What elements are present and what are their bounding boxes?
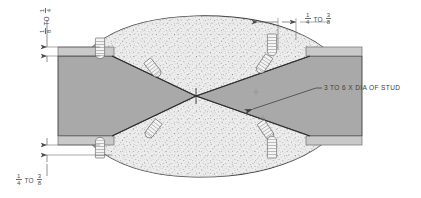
dimension-top-right-separator: TO: [311, 16, 326, 23]
annotation-stud-spacing: 3 TO 6 X DIA OF STUD: [324, 84, 400, 91]
dimension-bottom-left: 1 4 TO 3 8: [16, 174, 42, 187]
dimension-top-right-from: 1 4: [305, 12, 311, 25]
drawing-canvas: 1 8 TO 1 4 1 4 TO 3 8 1 4 TO 3 8 3 TO: [0, 0, 421, 198]
dimension-top-right: 1 4 TO 3 8: [305, 13, 331, 26]
dimension-top-right-to: 3 8: [326, 12, 332, 25]
stud-bottom-right: [267, 136, 276, 158]
stud-top-left: [95, 38, 104, 59]
flange-left-bottom: [58, 136, 114, 145]
technical-drawing: [0, 0, 421, 198]
dimension-left-top-from: 1 8: [39, 28, 52, 34]
flange-left-top: [58, 47, 114, 56]
dimension-bottom-left-from: 1 4: [16, 173, 22, 186]
flange-right-bottom: [306, 136, 362, 145]
dimension-left-top-separator: TO: [43, 14, 50, 29]
dimension-left-top-to: 1 4: [39, 8, 52, 14]
stud-top-right: [267, 34, 276, 56]
dimension-left-top: 1 8 TO 1 4: [40, 8, 53, 34]
dimension-bottom-left-separator: TO: [22, 177, 37, 184]
flange-right-top: [306, 47, 362, 56]
dimension-bottom-left-to: 3 8: [37, 173, 43, 186]
